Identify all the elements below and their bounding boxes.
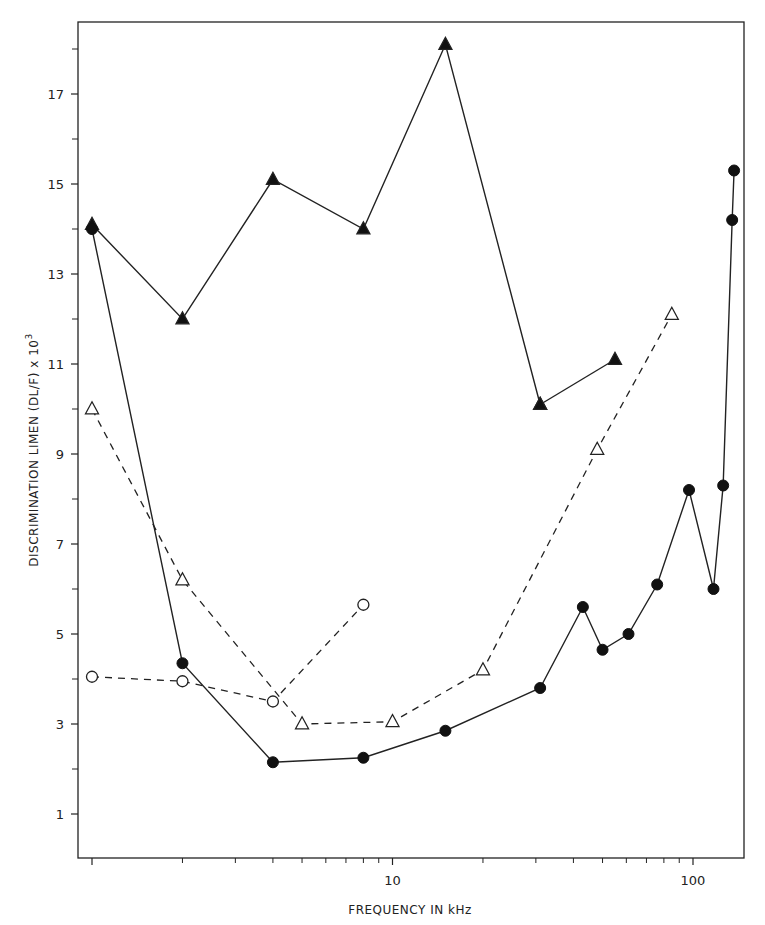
data-point — [652, 579, 663, 590]
y-tick-label: 17 — [47, 87, 64, 102]
data-point — [729, 165, 740, 176]
y-tick-label: 13 — [47, 267, 64, 282]
data-point — [665, 307, 678, 319]
data-point — [358, 752, 369, 763]
series-filled-triangles-tail — [534, 352, 622, 409]
data-point — [357, 222, 370, 234]
data-point — [87, 224, 98, 235]
data-point — [87, 671, 98, 682]
data-point — [623, 629, 634, 640]
data-point — [708, 584, 719, 595]
data-point — [727, 215, 738, 226]
data-point — [684, 485, 695, 496]
series-line — [92, 605, 363, 702]
data-point — [534, 397, 547, 409]
data-point — [266, 172, 279, 184]
y-tick-label: 3 — [56, 717, 64, 732]
data-point — [177, 658, 188, 669]
data-point — [296, 717, 309, 729]
y-tick-label: 1 — [56, 807, 64, 822]
data-point — [267, 696, 278, 707]
x-tick-label: 100 — [681, 873, 706, 888]
y-tick-label: 15 — [47, 177, 64, 192]
data-point — [597, 644, 608, 655]
x-tick-label: 10 — [384, 873, 401, 888]
data-point — [608, 352, 621, 364]
x-axis: 10100 — [92, 858, 705, 888]
data-point — [718, 480, 729, 491]
plot-frame — [78, 22, 744, 858]
y-axis-title: DISCRIMINATION LIMEN (DL/F) x 103 — [24, 333, 41, 566]
series-open-triangles — [86, 307, 679, 729]
y-tick-label: 11 — [47, 357, 64, 372]
series-line — [92, 45, 540, 405]
series-open-circles — [87, 599, 369, 707]
data-point — [86, 402, 99, 414]
y-axis-title-exponent: 3 — [24, 333, 34, 339]
data-point — [358, 599, 369, 610]
y-tick-label: 7 — [56, 537, 64, 552]
data-point — [440, 725, 451, 736]
data-point — [176, 573, 189, 585]
data-point — [267, 757, 278, 768]
y-axis: 1357911131517 — [47, 49, 78, 822]
x-axis-title: FREQUENCY IN kHz — [348, 903, 472, 917]
series-line — [92, 171, 734, 763]
y-tick-label: 9 — [56, 447, 64, 462]
data-point — [476, 663, 489, 675]
data-point — [577, 602, 588, 613]
data-point — [591, 442, 604, 454]
series-layer — [86, 37, 740, 767]
data-point — [386, 715, 399, 727]
y-axis-title-text: DISCRIMINATION LIMEN (DL/F) x 10 — [27, 340, 41, 567]
chart: 10100 1357911131517 FREQUENCY IN kHz DIS… — [0, 0, 765, 925]
data-point — [535, 683, 546, 694]
data-point — [439, 37, 452, 49]
data-point — [177, 676, 188, 687]
y-tick-label: 5 — [56, 627, 64, 642]
series-filled-triangles — [86, 37, 547, 409]
series-line — [540, 360, 615, 405]
